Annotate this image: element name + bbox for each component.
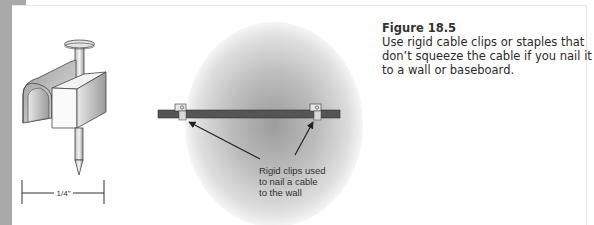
figure-caption-text: Use rigid cable clips or staples that do…	[382, 35, 592, 77]
callout-line: to the wall	[259, 187, 339, 198]
callout-line: Rigid clips used	[259, 165, 339, 176]
cable-staple-illustration: 1/4"	[0, 0, 150, 225]
figure-caption: Figure 18.5 Use rigid cable clips or sta…	[382, 21, 592, 77]
figure-number: Figure 18.5	[382, 21, 592, 35]
clip-callout: Rigid clips used to nail a cable to the …	[259, 165, 339, 198]
dimension-label: 1/4"	[57, 189, 71, 198]
callout-line: to nail a cable	[259, 176, 339, 187]
